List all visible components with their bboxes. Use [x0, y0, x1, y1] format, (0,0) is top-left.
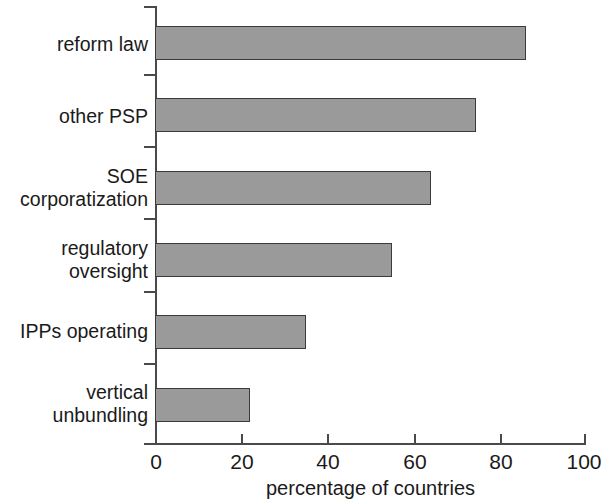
x-axis-tick [414, 434, 416, 445]
y-axis-tick [144, 443, 155, 445]
x-tick-label-100: 100 [544, 449, 603, 475]
y-axis-tick [144, 291, 155, 293]
y-axis-tick [144, 74, 155, 76]
x-axis-tick-labels: 0 20 40 60 80 100 [0, 449, 603, 477]
x-axis-tick [327, 434, 329, 445]
y-axis-tick [144, 146, 155, 148]
bar-soe-corporatization [155, 171, 431, 205]
bar-regulatory-oversight [155, 243, 392, 277]
bar-vertical-unbundling [155, 388, 250, 422]
category-label-other-psp: other PSP [2, 105, 148, 128]
plot-area [155, 6, 586, 443]
y-axis-tick [144, 363, 155, 365]
category-axis-labels: reform law other PSP SOE corporatization… [0, 0, 148, 504]
bar-reform-law [155, 26, 526, 60]
bar-ipps-operating [155, 315, 306, 349]
category-label-vertical-unbundling: vertical unbundling [2, 381, 148, 427]
x-tick-label-20: 20 [202, 449, 282, 475]
y-axis-line [155, 6, 157, 443]
y-axis-tick [144, 218, 155, 220]
x-tick-label-80: 80 [461, 449, 541, 475]
bar-other-psp [155, 98, 476, 132]
x-axis-tick [155, 434, 157, 445]
x-axis-title: percentage of countries [155, 476, 586, 501]
x-tick-label-0: 0 [116, 449, 196, 475]
category-label-reform-law: reform law [2, 33, 148, 56]
category-label-soe-corporatization: SOE corporatization [2, 165, 148, 211]
bar-chart-figure: reform law other PSP SOE corporatization… [0, 0, 603, 504]
x-axis-line [155, 443, 586, 445]
category-label-ipps-operating: IPPs operating [2, 320, 148, 343]
x-axis-tick [500, 434, 502, 445]
x-axis-tick [584, 434, 586, 445]
x-axis-tick [241, 434, 243, 445]
x-tick-label-40: 40 [288, 449, 368, 475]
x-tick-label-60: 60 [375, 449, 455, 475]
category-label-regulatory-oversight: regulatory oversight [2, 237, 148, 283]
y-axis-tick [144, 6, 155, 8]
